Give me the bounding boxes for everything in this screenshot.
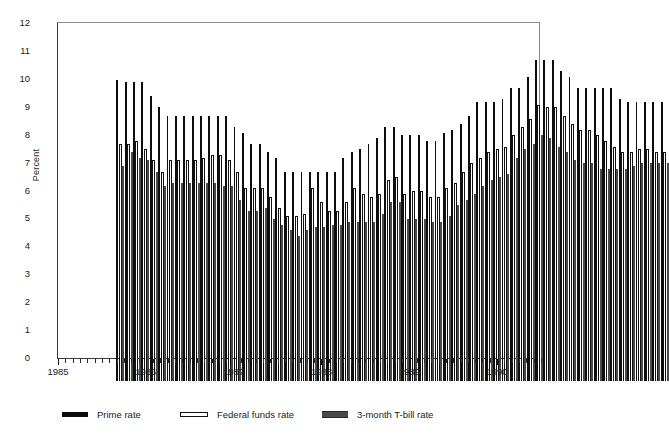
x-axis-minor-tick xyxy=(95,359,96,363)
x-axis-minor-tick xyxy=(87,359,88,363)
bar-group xyxy=(150,46,158,381)
prime-swatch xyxy=(62,412,88,417)
bar-group xyxy=(309,46,317,381)
x-axis-minor-tick xyxy=(512,359,513,363)
bar-group xyxy=(610,46,618,381)
x-axis-minor-tick xyxy=(475,359,476,363)
bar-group xyxy=(501,46,509,381)
x-axis-minor-tick xyxy=(490,359,491,363)
x-axis-minor-tick xyxy=(461,359,462,363)
y-axis-tick-label: 6 xyxy=(0,186,30,196)
x-axis-minor-tick xyxy=(292,359,293,363)
x-axis-minor-tick xyxy=(482,359,483,363)
federal-funds-swatch xyxy=(180,412,208,417)
x-axis-minor-tick xyxy=(109,359,110,363)
bar-group xyxy=(510,46,518,381)
x-axis-tick-label: 1989 xyxy=(399,366,420,377)
legend-item[interactable]: 3-month T-bill rate xyxy=(322,409,433,420)
x-axis-minor-tick xyxy=(453,359,454,363)
bar-group xyxy=(225,46,233,381)
bar-group xyxy=(526,46,534,381)
x-axis-minor-tick xyxy=(248,359,249,363)
bar-group xyxy=(217,46,225,381)
x-axis-minor-tick xyxy=(117,359,118,363)
x-axis-minor-tick xyxy=(395,359,396,363)
bar-group xyxy=(593,46,601,381)
y-axis-tick-label: 0 xyxy=(0,353,30,363)
bar-group xyxy=(426,46,434,381)
x-axis-minor-tick xyxy=(534,359,535,363)
bar-group xyxy=(166,46,174,381)
plot-area xyxy=(57,22,540,359)
x-axis-minor-tick xyxy=(431,359,432,363)
legend-label: Prime rate xyxy=(97,409,141,420)
x-axis-minor-tick xyxy=(160,359,161,363)
x-axis-tick-label: 1990 xyxy=(487,366,508,377)
x-axis-minor-tick xyxy=(307,359,308,363)
x-axis-minor-tick xyxy=(314,359,315,363)
x-axis-minor-tick xyxy=(131,359,132,363)
legend-label: Federal funds rate xyxy=(217,409,294,420)
x-axis-minor-tick xyxy=(80,359,81,363)
bar-group xyxy=(409,46,417,381)
bar-group xyxy=(577,46,585,381)
bar-group xyxy=(275,46,283,381)
bar-group xyxy=(443,46,451,381)
bar-group xyxy=(191,46,199,381)
x-axis-minor-tick xyxy=(226,359,227,363)
bar-group xyxy=(459,46,467,381)
x-axis-minor-tick xyxy=(504,359,505,363)
x-axis-minor-tick xyxy=(402,359,403,363)
x-axis-tick-marks xyxy=(58,359,539,365)
x-axis-tick-label: 1986 xyxy=(135,366,156,377)
chart-legend: Prime rateFederal funds rate3-month T-bi… xyxy=(0,404,571,424)
bar-group xyxy=(124,46,132,381)
bar-group xyxy=(359,46,367,381)
x-axis-minor-tick xyxy=(358,359,359,363)
x-axis-tick-label: 1987 xyxy=(223,366,244,377)
x-axis-minor-tick xyxy=(336,359,337,363)
bar-series-container xyxy=(116,46,597,381)
x-axis-minor-tick xyxy=(519,359,520,363)
bar-group xyxy=(133,46,141,381)
legend-item[interactable]: Prime rate xyxy=(62,409,141,420)
y-axis-tick-label: 9 xyxy=(0,102,30,112)
bar-group xyxy=(493,46,501,381)
bar-group xyxy=(292,46,300,381)
x-axis-minor-tick xyxy=(285,359,286,363)
x-axis-minor-tick xyxy=(526,359,527,363)
bar-group xyxy=(376,46,384,381)
legend-item[interactable]: Federal funds rate xyxy=(180,409,294,420)
x-axis-minor-tick xyxy=(278,359,279,363)
x-axis-minor-tick xyxy=(139,359,140,363)
bar-group xyxy=(325,46,333,381)
x-axis-minor-tick xyxy=(263,359,264,363)
x-axis-minor-tick xyxy=(424,359,425,363)
x-axis-labels: 198519861987198819891990 xyxy=(0,366,571,380)
bar-group xyxy=(476,46,484,381)
x-axis-major-tick xyxy=(497,359,498,365)
bar-group xyxy=(652,46,660,381)
x-axis-minor-tick xyxy=(329,359,330,363)
x-axis-major-tick xyxy=(58,359,59,365)
bar-group xyxy=(635,46,643,381)
bar-group xyxy=(116,46,124,381)
bar-group xyxy=(543,46,551,381)
bar-group xyxy=(518,46,526,381)
x-axis-minor-tick xyxy=(439,359,440,363)
x-axis-minor-tick xyxy=(73,359,74,363)
tbill-swatch xyxy=(322,411,348,418)
bar-group xyxy=(367,46,375,381)
bar-group xyxy=(468,46,476,381)
x-axis-minor-tick xyxy=(270,359,271,363)
x-axis-minor-tick xyxy=(380,359,381,363)
bar-group xyxy=(141,46,149,381)
y-axis-tick-label: 7 xyxy=(0,158,30,168)
x-axis-major-tick xyxy=(321,359,322,365)
bar-group xyxy=(627,46,635,381)
bar-group xyxy=(560,46,568,381)
bar-group xyxy=(451,46,459,381)
x-axis-minor-tick xyxy=(197,359,198,363)
x-axis-minor-tick xyxy=(365,359,366,363)
